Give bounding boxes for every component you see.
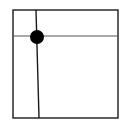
grid-diagram (0, 0, 130, 126)
vertical-divider (36, 10, 39, 118)
intersection-dot (30, 30, 44, 44)
frame-square (13, 10, 118, 118)
